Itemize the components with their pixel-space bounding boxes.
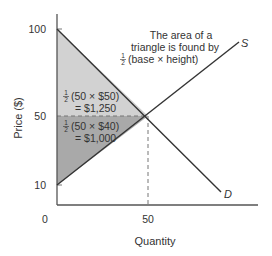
ps-formula: (50 × $40) (71, 120, 119, 132)
cs-formula: (50 × $50) (71, 90, 119, 102)
x-tick-label-50: 50 (142, 213, 154, 225)
y-tick-label-10: 10 (34, 179, 46, 191)
supply-curve-label: S (241, 37, 249, 49)
surplus-diagram: S D 100 50 10 0 50 Price ($) Quantity 1 … (0, 0, 272, 256)
x-axis-title: Quantity (135, 235, 176, 247)
ps-frac-denominator: 2 (64, 126, 68, 133)
ps-frac-numerator: 1 (64, 119, 68, 126)
y-axis-title: Price ($) (12, 97, 24, 139)
cs-value: = $1,250 (75, 102, 116, 114)
x-tick-label-0: 0 (42, 213, 48, 225)
y-tick-label-100: 100 (28, 23, 46, 35)
demand-curve-label: D (224, 188, 232, 200)
annotation-frac-denominator: 2 (121, 59, 125, 66)
triangle-area-annotation: The area of a triangle is found by 1 2 (… (120, 29, 220, 66)
annotation-line-1: The area of a (150, 29, 213, 41)
annotation-frac-numerator: 1 (121, 52, 125, 59)
cs-frac-denominator: 2 (64, 96, 68, 103)
y-tick-label-50: 50 (34, 110, 46, 122)
ps-value: = $1,000 (75, 132, 116, 144)
cs-frac-numerator: 1 (64, 89, 68, 96)
annotation-line-2: triangle is found by (131, 41, 220, 53)
annotation-line-3: (base × height) (128, 53, 198, 65)
